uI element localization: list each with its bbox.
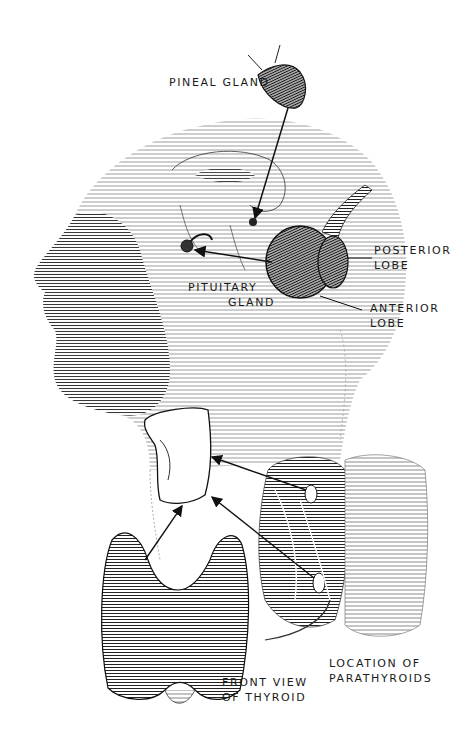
label-posterior-lobe: POSTERIOR LOBE (374, 243, 452, 273)
label-line: GLAND (188, 295, 275, 310)
label-pineal-gland: PINEAL GLAND (169, 75, 270, 90)
label-line: ANTERIOR (370, 301, 439, 316)
label-anterior-lobe: ANTERIOR LOBE (370, 301, 439, 331)
label-line: PINEAL GLAND (169, 75, 270, 90)
label-line: LOBE (370, 316, 439, 331)
label-front-view-thyroid: FRONT VIEW OF THYROID (222, 675, 308, 705)
label-line: PARATHYROIDS (329, 671, 432, 686)
illustration-artwork (0, 0, 468, 747)
thyroid-front-view (102, 506, 249, 703)
label-line: FRONT VIEW (222, 675, 308, 690)
label-line: LOCATION OF (329, 656, 432, 671)
label-pituitary-gland: PITUITARY GLAND (188, 280, 275, 310)
anatomy-illustration: PINEAL GLAND POSTERIOR LOBE ANTERIOR LOB… (0, 0, 468, 747)
label-line: LOBE (374, 258, 452, 273)
label-location-parathyroids: LOCATION OF PARATHYROIDS (329, 656, 432, 686)
label-line: OF THYROID (222, 690, 308, 705)
label-line: PITUITARY (188, 280, 275, 295)
label-line: POSTERIOR (374, 243, 452, 258)
